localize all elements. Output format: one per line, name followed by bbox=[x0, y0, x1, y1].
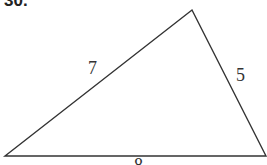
triangle-figure bbox=[0, 0, 267, 165]
triangle bbox=[5, 10, 266, 156]
side-label-left: 7 bbox=[88, 58, 97, 79]
side-label-base: 8 bbox=[134, 155, 143, 165]
side-label-right: 5 bbox=[236, 65, 245, 86]
